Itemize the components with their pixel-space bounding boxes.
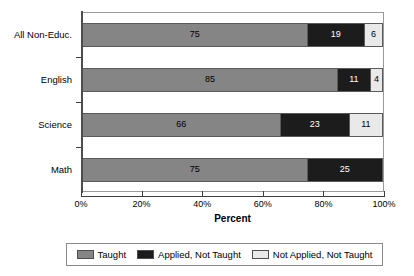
x-axis-line [81,196,384,197]
bars-layer: 75196851146623117525 [82,13,383,191]
bar-segment: 11 [350,113,383,137]
bar-segment: 23 [281,113,350,137]
x-axis-tick [81,191,82,197]
x-axis-tick-label: 100% [372,199,395,209]
bar-segment-value: 19 [331,30,341,39]
bar-row: 75196 [82,23,383,47]
bar-segment: 75 [82,23,308,47]
x-axis-title: Percent [81,213,384,225]
x-axis-tick [323,191,324,197]
bar-segment-value: 25 [340,165,350,174]
legend-swatch [252,250,269,259]
bar-segment: 25 [308,158,383,182]
bar-segment: 66 [82,113,281,137]
bar-segment-value: 11 [349,75,358,84]
bar-segment-value: 23 [310,120,320,129]
y-axis-label: Math [51,164,72,175]
legend-swatch [137,250,154,259]
bar-segment: 6 [365,23,383,47]
y-axis-label: Science [38,119,72,130]
bar-segment: 4 [371,68,383,92]
bar-row: 662311 [82,113,383,137]
bar-row: 7525 [82,158,383,182]
x-axis-tick-label: 0% [74,199,87,209]
bar-segment: 85 [82,68,338,92]
y-axis-label: All Non-Educ. [14,29,72,40]
x-axis-tick-label: 80% [314,199,332,209]
bar-segment: 11 [338,68,371,92]
bar-segment-value: 75 [190,30,200,39]
x-axis-tick-label: 60% [254,199,272,209]
legend-item: Applied, Not Taught [137,249,241,260]
legend-label: Taught [98,249,127,260]
x-axis-tick [263,191,264,197]
bar-segment-value: 66 [176,120,186,129]
plot-area: 75196851146623117525 [81,12,384,192]
bar-segment-value: 75 [190,165,200,174]
bar-segment-value: 4 [374,75,379,84]
x-axis-tick [142,191,143,197]
x-axis-tick [202,191,203,197]
bar-segment-value: 85 [205,75,215,84]
legend-label: Not Applied, Not Taught [273,249,373,260]
y-axis-category-labels: All Non-Educ.EnglishScienceMath [0,12,76,192]
bar-row: 85114 [82,68,383,92]
stacked-bar-chart: All Non-Educ.EnglishScienceMath 75196851… [0,0,414,276]
bar-segment: 19 [308,23,365,47]
y-axis-spine [81,11,83,193]
bar-segment-value: 6 [371,30,376,39]
legend-item: Not Applied, Not Taught [252,249,373,260]
bar-segment-value: 11 [361,120,370,129]
legend-label: Applied, Not Taught [158,249,241,260]
bar-segment: 75 [82,158,308,182]
chart-legend: TaughtApplied, Not TaughtNot Applied, No… [66,243,383,266]
legend-swatch [77,250,94,259]
y-axis-label: English [41,74,72,85]
x-axis-tick-label: 40% [193,199,211,209]
x-axis-tick [384,191,385,197]
legend-item: Taught [77,249,127,260]
x-axis-tick-label: 20% [133,199,151,209]
